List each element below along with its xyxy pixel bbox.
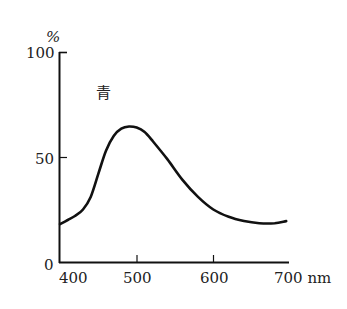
y-tick-label-0: 0 <box>44 256 54 274</box>
x-tick-label-500: 500 <box>123 269 152 287</box>
y-tick-label-100: 100 <box>26 44 55 62</box>
y-tick-label-50: 50 <box>35 150 54 168</box>
x-tick-label-600: 600 <box>200 269 229 287</box>
x-tick-label-400: 400 <box>59 269 88 287</box>
spectral-curve-line <box>60 126 286 224</box>
x-tick-label-700-nm: 700 nm <box>274 269 331 287</box>
spectral-curve-chart: % 100 50 0 400 500 600 700 nm 青 <box>0 0 347 309</box>
curve-annotation-label: 青 <box>96 84 111 102</box>
